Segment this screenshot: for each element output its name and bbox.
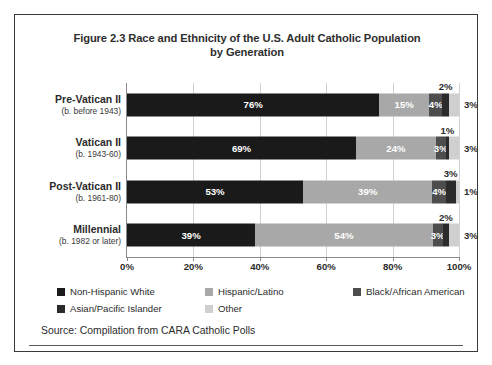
bar-segment: 3% <box>446 180 456 203</box>
x-tick-label: 100% <box>447 261 472 272</box>
bar-segment: 69% <box>127 137 356 160</box>
gridline <box>459 83 460 257</box>
segment-callout-label: 1% <box>440 125 454 135</box>
category-birth-years: (b. 1961-80) <box>13 192 121 204</box>
source-note: Source: Compilation from CARA Catholic P… <box>41 325 255 336</box>
segment-value-label: 24% <box>386 143 405 153</box>
legend-label: Non-Hispanic White <box>70 286 155 297</box>
legend-item: Asian/Pacific Islander <box>57 303 205 314</box>
segment-value-label: 4% <box>429 100 443 110</box>
segment-outside-label: 3% <box>464 143 478 153</box>
segment-value-label: 39% <box>358 187 377 197</box>
category-name: Post-Vatican II <box>13 180 121 192</box>
bar-segment: 24% <box>356 137 436 160</box>
bar-segment: 3% <box>449 93 459 116</box>
category-name: Vatican II <box>13 136 121 148</box>
chart-title: Figure 2.3 Race and Ethnicity of the U.S… <box>35 31 459 59</box>
category-birth-years: (b. 1982 or later) <box>13 235 121 247</box>
category-name: Pre-Vatican II <box>13 93 121 105</box>
x-tick-label: 80% <box>383 261 402 272</box>
stacked-bar: 53%39%4%3%1% <box>127 180 459 203</box>
segment-value-label: 54% <box>334 230 353 240</box>
segment-value-label: 15% <box>395 100 414 110</box>
bar-row: Post-Vatican II(b. 1961-80)53%39%4%3%1% <box>127 170 459 214</box>
segment-callout-label: 3% <box>444 169 458 179</box>
legend-swatch <box>353 288 361 296</box>
stacked-bar: 69%24%3%1%3% <box>127 137 459 160</box>
legend-item: Other <box>205 303 353 314</box>
segment-outside-label: 3% <box>464 100 478 110</box>
segment-value-label: 76% <box>244 100 263 110</box>
plot-wrapper: Pre-Vatican II(b. before 1943)76%15%4%2%… <box>15 73 477 273</box>
x-tick-label: 20% <box>184 261 203 272</box>
segment-callout-label: 2% <box>439 212 453 222</box>
bar-row: Vatican II(b. 1943-60)69%24%3%1%3% <box>127 127 459 171</box>
bar-segment: 39% <box>127 224 255 247</box>
segment-outside-label: 1% <box>464 187 478 197</box>
legend-label: Hispanic/Latino <box>218 286 284 297</box>
bar-segment: 53% <box>127 180 303 203</box>
chart-title-line-2: by Generation <box>210 46 284 58</box>
legend-item: Hispanic/Latino <box>205 286 353 297</box>
bar-segment: 4% <box>432 180 445 203</box>
chart-title-line-1: Figure 2.3 Race and Ethnicity of the U.S… <box>73 32 420 44</box>
segment-value-label: 4% <box>432 187 446 197</box>
figure-frame: Figure 2.3 Race and Ethnicity of the U.S… <box>14 14 478 352</box>
category-label: Millennial(b. 1982 or later) <box>13 223 127 247</box>
category-label: Vatican II(b. 1943-60) <box>13 136 127 160</box>
category-birth-years: (b. before 1943) <box>13 105 121 117</box>
category-label: Post-Vatican II(b. 1961-80) <box>13 180 127 204</box>
segment-value-label: 39% <box>181 230 200 240</box>
bar-segment: 54% <box>255 224 432 247</box>
legend-label: Asian/Pacific Islander <box>70 303 162 314</box>
segment-callout-label: 2% <box>439 82 453 92</box>
legend-swatch <box>205 305 213 313</box>
segment-value-label: 53% <box>205 187 224 197</box>
bar-segment: 15% <box>379 93 429 116</box>
x-tick-label: 40% <box>250 261 269 272</box>
legend-item: Black/African American <box>353 286 465 297</box>
legend-swatch <box>57 305 65 313</box>
source-divider <box>29 345 463 346</box>
segment-value-label: 69% <box>232 143 251 153</box>
bar-segment: 3% <box>449 137 459 160</box>
legend-swatch <box>205 288 213 296</box>
category-name: Millennial <box>13 223 121 235</box>
bar-segment: 3% <box>433 224 443 247</box>
chart-legend: Non-Hispanic WhiteHispanic/LatinoBlack/A… <box>57 283 447 317</box>
x-tick-label: 60% <box>317 261 336 272</box>
bar-segment: 2% <box>442 93 449 116</box>
stacked-bar: 76%15%4%2%3% <box>127 93 459 116</box>
stacked-bar: 39%54%3%2%3% <box>127 224 459 247</box>
category-label: Pre-Vatican II(b. before 1943) <box>13 93 127 117</box>
bar-segment: 1% <box>456 180 459 203</box>
legend-label: Other <box>218 303 242 314</box>
bar-segment: 3% <box>436 137 446 160</box>
category-birth-years: (b. 1943-60) <box>13 148 121 160</box>
legend-swatch <box>57 288 65 296</box>
bar-segment: 4% <box>429 93 442 116</box>
plot-area: Pre-Vatican II(b. before 1943)76%15%4%2%… <box>126 83 459 258</box>
bar-row: Pre-Vatican II(b. before 1943)76%15%4%2%… <box>127 83 459 127</box>
bar-segment: 39% <box>303 180 432 203</box>
legend-item: Non-Hispanic White <box>57 286 205 297</box>
segment-outside-label: 3% <box>464 230 478 240</box>
bar-segment: 3% <box>449 224 459 247</box>
bar-segment: 76% <box>127 93 379 116</box>
x-tick-label: 0% <box>120 261 134 272</box>
bar-row: Millennial(b. 1982 or later)39%54%3%2%3% <box>127 214 459 258</box>
legend-label: Black/African American <box>366 286 465 297</box>
